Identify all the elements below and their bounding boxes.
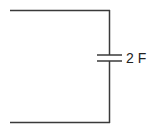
wires <box>10 10 110 123</box>
capacitor-symbol <box>97 55 122 61</box>
capacitor-label: 2 F <box>126 50 146 66</box>
circuit-diagram: 2 F <box>0 0 157 132</box>
